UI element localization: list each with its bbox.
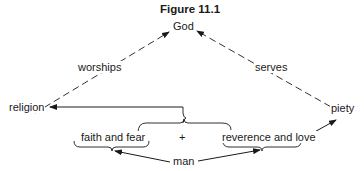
node-religion: religion (8, 101, 45, 113)
edge-label-worships: worships (77, 61, 122, 73)
node-piety: piety (330, 102, 355, 114)
node-reverence-and-love: reverence and love (221, 131, 317, 143)
man-to-reverence-arrow (198, 150, 260, 161)
node-god: God (172, 20, 195, 32)
figure-title: Figure 11.1 (159, 3, 221, 15)
plus-sign: + (178, 131, 186, 143)
figure-11-1-diagram: Figure 11.1 God worships serves religion… (0, 0, 364, 171)
edge-label-serves: serves (254, 61, 288, 73)
node-man: man (172, 155, 195, 167)
man-to-faith-arrow (115, 151, 170, 162)
node-faith-and-fear: faith and fear (80, 131, 146, 143)
